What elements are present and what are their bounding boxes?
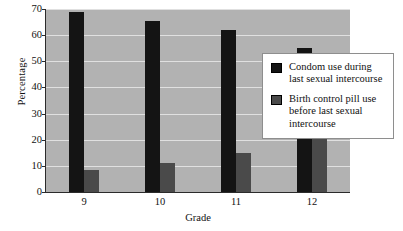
- y-axis-tick-mark: [42, 9, 46, 10]
- x-axis-tick-label: 9: [81, 196, 86, 207]
- y-axis-tick-mark: [42, 192, 46, 193]
- x-axis-tick-label: 12: [307, 196, 318, 207]
- y-axis-tick-label: 0: [18, 187, 42, 198]
- y-axis-tick-label: 50: [18, 56, 42, 67]
- bar-group: [69, 9, 99, 192]
- bar: [160, 163, 175, 192]
- bar: [221, 30, 236, 192]
- bar-group: [145, 9, 175, 192]
- y-axis-tick-mark: [42, 61, 46, 62]
- y-axis-tick-label: 20: [18, 134, 42, 145]
- bar: [236, 153, 251, 192]
- x-axis-tick-label: 10: [155, 196, 166, 207]
- y-axis-tick-mark: [42, 114, 46, 115]
- y-axis-tick-label: 30: [18, 108, 42, 119]
- bar-chart: Percentage 010203040506070 9101112 Grade…: [0, 0, 403, 231]
- legend-item-condom-use: Condom use during last sexual intercours…: [271, 61, 386, 86]
- bar: [145, 21, 160, 192]
- bar: [84, 170, 99, 192]
- legend-swatch-icon: [271, 95, 282, 105]
- legend-swatch-icon: [271, 63, 282, 73]
- legend-item-birth-control-pill: Birth control pill use before last sexua…: [271, 93, 386, 130]
- y-axis-tick-label: 10: [18, 161, 42, 172]
- y-axis-tick-label: 40: [18, 82, 42, 93]
- bar-group: [221, 9, 251, 192]
- y-axis-tick-mark: [42, 140, 46, 141]
- y-axis-tick-mark: [42, 87, 46, 88]
- legend-item-label: Condom use during last sexual intercours…: [289, 61, 386, 86]
- x-axis-tick-label: 11: [231, 196, 241, 207]
- y-axis-tick-label: 70: [18, 4, 42, 15]
- bar: [69, 12, 84, 192]
- y-axis-tick-mark: [42, 166, 46, 167]
- x-axis-title: Grade: [46, 212, 350, 223]
- chart-legend: Condom use during last sexual intercours…: [262, 53, 394, 139]
- y-axis-tick-labels: 010203040506070: [18, 0, 42, 231]
- y-axis-tick-label: 60: [18, 30, 42, 41]
- y-axis-tick-mark: [42, 35, 46, 36]
- legend-item-label: Birth control pill use before last sexua…: [289, 93, 386, 130]
- bar: [312, 135, 327, 193]
- x-axis-tick-labels: 9101112: [46, 196, 350, 212]
- x-axis-line: [45, 192, 350, 193]
